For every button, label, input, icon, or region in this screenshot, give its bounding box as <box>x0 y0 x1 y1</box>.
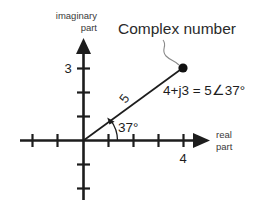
callout-leader-line <box>163 40 179 65</box>
imaginary-tick-label-3: 3 <box>64 61 71 76</box>
complex-number-equation: 4+j3 = 5∠37° <box>163 83 245 98</box>
argand-diagram-figure: imaginary part real part 3 4 Complex num… <box>0 0 264 216</box>
imaginary-axis-caption-line2: part <box>81 22 98 33</box>
figure-title: Complex number <box>118 20 236 37</box>
imaginary-axis-caption-line1: imaginary <box>56 10 97 21</box>
real-tick-label-4: 4 <box>179 151 186 166</box>
complex-plane-plot: imaginary part real part 3 4 Complex num… <box>0 0 264 216</box>
real-axis-caption-line1: real <box>216 129 232 140</box>
imaginary-axis-arrowhead <box>76 38 91 54</box>
complex-point-marker <box>178 63 187 72</box>
magnitude-label: 5 <box>116 91 132 106</box>
real-axis-arrowhead <box>193 133 210 148</box>
real-axis-group <box>20 133 210 148</box>
angle-label: 37° <box>118 120 138 135</box>
real-axis-caption-line2: part <box>216 141 233 152</box>
imaginary-axis-group <box>76 38 91 200</box>
